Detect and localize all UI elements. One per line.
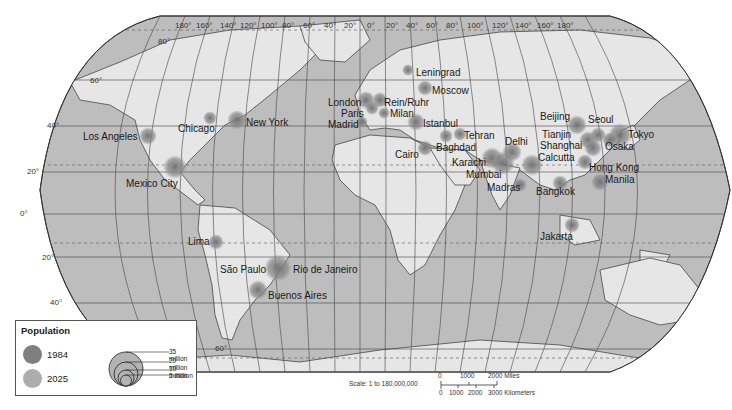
lon-label: 80°: [282, 22, 294, 30]
scale-km-3000: 3000 Kilometers: [488, 389, 535, 396]
lat-label: 80°: [158, 38, 170, 46]
legend: Population 1984 2025 35 million 20 milli…: [15, 320, 197, 396]
city-label: Madrid: [328, 120, 359, 130]
lon-label: 100°: [467, 22, 484, 30]
scale-miles-0: 0: [438, 372, 442, 379]
legend-label-1984: 1984: [47, 349, 68, 360]
city-label: Jakarta: [540, 232, 573, 242]
lon-label: 40°: [324, 22, 336, 30]
lon-label: 120°: [492, 22, 509, 30]
lon-label: 160°: [537, 22, 554, 30]
size-scale-icon: [104, 333, 174, 393]
city-label: Delhi: [505, 137, 528, 147]
lon-label: 140°: [220, 22, 237, 30]
scale-miles-1000: 1000: [460, 372, 474, 379]
city-label: Karachi: [452, 158, 486, 168]
legend-swatch-1984: [23, 345, 42, 364]
city-label: Tianjin: [542, 130, 571, 140]
lon-label: 120°: [240, 22, 257, 30]
lon-label: 0°: [367, 22, 375, 30]
legend-title: Population: [21, 325, 70, 336]
city-label: Rio de Janeiro: [293, 265, 357, 275]
lat-label: 40°: [47, 122, 59, 130]
legend-swatch-2025: [23, 369, 42, 388]
city-label: Hong Kong: [589, 163, 639, 173]
lon-label: 180°: [175, 22, 192, 30]
city-label: Moscow: [432, 86, 469, 96]
lon-label: 140°: [515, 22, 532, 30]
lat-label: 0°: [20, 210, 28, 218]
lat-label: 60°: [215, 345, 227, 353]
city-label: New York: [246, 118, 288, 128]
lat-label: 20°: [27, 168, 39, 176]
lon-label: 160°: [196, 22, 213, 30]
scale-miles-2000: 2000 Miles: [488, 372, 519, 379]
city-label: Milan: [390, 109, 414, 119]
city-label: Calcutta: [538, 153, 575, 163]
lon-label: 80°: [446, 22, 458, 30]
lon-label: 60°: [426, 22, 438, 30]
city-label: Mumbai: [466, 170, 502, 180]
city-label: Paris: [341, 109, 364, 119]
city-label: São Paulo: [220, 265, 266, 275]
city-label: Lima: [188, 237, 210, 247]
lon-label: 180°: [557, 22, 574, 30]
lon-label: 60°: [303, 22, 315, 30]
scale-km-1000: 1000: [449, 389, 463, 396]
lat-label: 60°: [90, 77, 102, 85]
city-label: Tokyo: [628, 130, 654, 140]
scale-text: Scale: 1 to 180,000,000: [349, 380, 418, 387]
city-label: Baghdad: [436, 143, 476, 153]
city-label: Bangkok: [536, 187, 575, 197]
city-label: Los Angeles: [83, 132, 138, 142]
city-label: Chicago: [178, 124, 215, 134]
city-label: Shanghai: [540, 141, 582, 151]
city-label: Istanbul: [423, 119, 458, 129]
city-label: Osaka: [605, 142, 634, 152]
lon-label: 100°: [261, 22, 278, 30]
scale-km-0: 0: [439, 389, 443, 396]
city-label: Beijing: [540, 112, 570, 122]
size-label: 5 million: [169, 373, 193, 380]
city-label: Rein/Ruhr: [384, 98, 429, 108]
scale-bar: [440, 381, 500, 389]
city-label: Tehran: [464, 131, 495, 141]
city-label: Leningrad: [416, 68, 460, 78]
city-label: Cairo: [395, 150, 419, 160]
lon-label: 20°: [344, 22, 356, 30]
lon-label: 40°: [406, 22, 418, 30]
lat-label: 20°: [42, 254, 54, 262]
city-label: Madras: [487, 183, 520, 193]
lat-label: 40°: [50, 299, 62, 307]
city-label: Mexico City: [126, 179, 178, 189]
lon-label: 20°: [386, 22, 398, 30]
scale-km-2000: 2000: [468, 389, 482, 396]
city-label: Manila: [605, 175, 634, 185]
city-label: Buenos Aires: [268, 291, 327, 301]
legend-label-2025: 2025: [47, 373, 68, 384]
city-label: London: [328, 98, 361, 108]
city-label: Seoul: [588, 115, 614, 125]
